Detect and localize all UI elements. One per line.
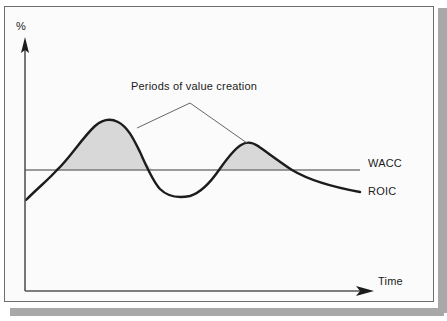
value-creation-annotation-label: Periods of value creation	[131, 80, 257, 92]
figure-container: % Time WACC ROIC Periods of value creati…	[0, 0, 447, 321]
annotation-leader-right	[190, 103, 247, 143]
y-axis-label: %	[16, 20, 26, 32]
x-axis-label: Time	[378, 275, 403, 287]
annotation-leader-left	[137, 103, 190, 128]
wacc-series-label: WACC	[368, 157, 402, 169]
roic-series-label: ROIC	[368, 185, 396, 197]
